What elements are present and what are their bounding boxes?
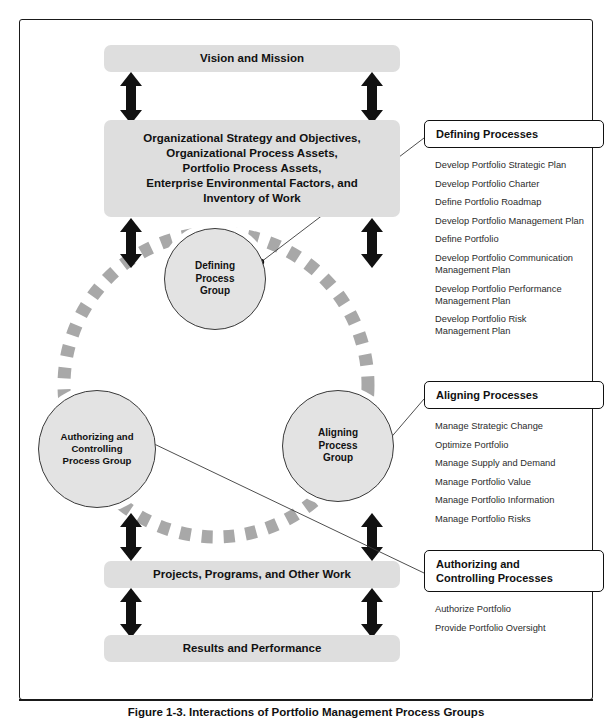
panel-defining-processes: Defining Processes Develop Portfolio Str… <box>424 120 604 344</box>
process-group-defining-label: Defining Process Group <box>195 260 235 298</box>
process-list-item: Manage Portfolio Risks <box>435 513 600 525</box>
arrow-projects-results-left <box>120 588 142 638</box>
panel-authorizing-controlling-list: Authorize PortfolioProvide Portfolio Ove… <box>424 592 604 634</box>
flow-box-vision-label: Vision and Mission <box>200 51 304 66</box>
arrow-projects-results-right <box>361 588 383 638</box>
process-list-item: Manage Portfolio Information <box>435 494 600 506</box>
figure-canvas: Vision and Mission Organizational Strate… <box>0 0 611 719</box>
flow-box-vision: Vision and Mission <box>104 45 400 72</box>
process-list-item: Optimize Portfolio <box>435 439 600 451</box>
process-list-item: Manage Strategic Change <box>435 420 600 432</box>
panel-defining-title: Defining Processes <box>424 120 604 148</box>
process-list-item: Provide Portfolio Oversight <box>435 622 600 634</box>
process-list-item: Develop Portfolio Risk Management Plan <box>435 313 600 337</box>
flow-box-projects-label: Projects, Programs, and Other Work <box>153 567 351 582</box>
process-list-item: Authorize Portfolio <box>435 603 600 615</box>
process-list-item: Develop Portfolio Communication Manageme… <box>435 252 600 276</box>
leader-aligning <box>388 399 424 441</box>
process-group-authorizing-controlling-label: Authorizing and Controlling Process Grou… <box>60 431 133 467</box>
process-list-item: Develop Portfolio Performance Management… <box>435 283 600 307</box>
figure-caption: Figure 1-3. Interactions of Portfolio Ma… <box>19 706 593 718</box>
arrow-strategy-defining-right <box>361 218 383 268</box>
flow-box-strategy: Organizational Strategy and Objectives, … <box>104 120 400 217</box>
process-list-item: Develop Portfolio Management Plan <box>435 215 600 227</box>
process-group-circle-aligning: Aligning Process Group <box>282 390 394 502</box>
process-list-item: Manage Supply and Demand <box>435 457 600 469</box>
process-group-circle-defining: Defining Process Group <box>164 228 266 330</box>
process-list-item: Manage Portfolio Value <box>435 476 600 488</box>
process-group-circle-authorizing-controlling: Authorizing and Controlling Process Grou… <box>38 390 156 508</box>
panel-authorizing-controlling-processes: Authorizing and Controlling Processes Au… <box>424 550 604 640</box>
flow-box-strategy-label: Organizational Strategy and Objectives, … <box>143 131 360 207</box>
process-group-aligning-label: Aligning Process Group <box>318 427 358 465</box>
panel-defining-list: Develop Portfolio Strategic PlanDevelop … <box>424 148 604 337</box>
flow-box-results: Results and Performance <box>104 635 400 662</box>
flow-box-results-label: Results and Performance <box>183 641 322 656</box>
process-list-item: Define Portfolio Roadmap <box>435 196 600 208</box>
caption-divider <box>19 699 593 701</box>
panel-aligning-title: Aligning Processes <box>424 381 604 409</box>
process-list-item: Develop Portfolio Charter <box>435 178 600 190</box>
panel-authorizing-controlling-title: Authorizing and Controlling Processes <box>424 550 604 592</box>
process-list-item: Develop Portfolio Strategic Plan <box>435 159 600 171</box>
panel-aligning-processes: Aligning Processes Manage Strategic Chan… <box>424 381 604 532</box>
panel-aligning-list: Manage Strategic ChangeOptimize Portfoli… <box>424 409 604 525</box>
flow-box-projects: Projects, Programs, and Other Work <box>104 561 400 588</box>
process-list-item: Define Portfolio <box>435 233 600 245</box>
